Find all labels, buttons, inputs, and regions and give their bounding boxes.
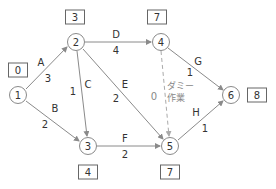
activity-c-duration: 1 (70, 87, 76, 97)
dummy-duration: 0 (151, 92, 157, 102)
activity-e-duration: 2 (113, 94, 119, 104)
node-2: 2 (67, 33, 85, 51)
earliest-time-box-node-3: 4 (78, 165, 98, 180)
activity-d-duration: 4 (113, 46, 119, 56)
earliest-time-box-node-5: 7 (160, 165, 180, 180)
earliest-time-box-node-1: 0 (8, 63, 28, 78)
node-5: 5 (161, 137, 179, 155)
dummy-label-line1: ダミー (167, 82, 194, 92)
node-1: 1 (9, 86, 27, 104)
activity-b-name: B (52, 104, 59, 114)
activity-a-name: A (38, 58, 45, 68)
activity-g-name: G (194, 57, 202, 67)
activity-h-duration: 1 (202, 124, 208, 134)
activity-b-duration: 2 (42, 120, 48, 130)
arrow-diagram: 1 2 3 4 5 6 0 3 4 7 7 8 A 3 B 2 C 1 D 4 … (0, 0, 276, 189)
activity-f-duration: 2 (122, 150, 128, 160)
edge-c (77, 51, 87, 136)
activity-a-duration: 3 (45, 74, 51, 84)
dummy-label-line2: 作業 (167, 94, 185, 104)
earliest-time-box-node-2: 3 (65, 10, 85, 25)
activity-c-name: C (85, 80, 92, 90)
node-3: 3 (79, 137, 97, 155)
node-6: 6 (222, 86, 240, 104)
activity-f-name: F (122, 134, 128, 144)
earliest-time-box-node-4: 7 (147, 10, 167, 25)
activity-g-duration: 1 (187, 68, 193, 78)
activity-d-name: D (112, 30, 120, 40)
edge-h (178, 101, 223, 140)
activity-e-name: E (122, 80, 128, 90)
node-4: 4 (152, 33, 170, 51)
activity-h-name: H (192, 108, 200, 118)
earliest-time-box-node-6: 8 (247, 88, 267, 103)
